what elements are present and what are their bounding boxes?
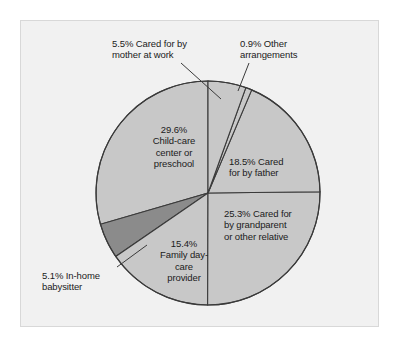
pie-label-father-line2: for by father [229, 167, 278, 178]
pie-label-family-day-care: 15.4%Family day-careprovider [148, 238, 220, 284]
pie-label-in-home-babysitter: 5.1% In-homebabysitter [42, 270, 100, 293]
pie-label-in-home-babysitter-line1: 5.1% In-home [42, 270, 100, 281]
pie-label-family-day-care-line3: care [175, 261, 193, 272]
pie-label-family-day-care-line4: provider [167, 272, 201, 283]
pie-label-family-day-care-line1: 15.4% [171, 238, 197, 249]
pie-label-childcare-center-line1: 29.6% [161, 124, 187, 135]
pie-label-father: 18.5% Caredfor by father [229, 156, 283, 179]
pie-label-other-arrangements-line2: arrangements [240, 49, 297, 60]
pie-label-grandparent-line2: by grandparent [224, 219, 287, 230]
pie-label-mother-at-work-line1: 5.5% Cared for by [112, 38, 187, 49]
pie-label-childcare-center: 29.6%Child-carecenter orpreschool [131, 124, 217, 170]
pie-chart-canvas [0, 0, 401, 348]
pie-chart-figure: 5.5% Cared for bymother at work 0.9% Oth… [0, 0, 401, 348]
pie-label-other-arrangements-line1: 0.9% Other [240, 38, 287, 49]
pie-label-in-home-babysitter-line2: babysitter [42, 281, 82, 292]
pie-label-other-arrangements: 0.9% Otherarrangements [240, 38, 297, 61]
pie-label-family-day-care-line2: Family day- [160, 249, 208, 260]
pie-label-childcare-center-line2: Child-care [153, 135, 195, 146]
pie-label-childcare-center-line3: center or [156, 147, 193, 158]
pie-label-father-line1: 18.5% Cared [229, 156, 283, 167]
pie-label-grandparent: 25.3% Cared forby grandparentor other re… [224, 208, 292, 242]
pie-label-childcare-center-line4: preschool [154, 158, 194, 169]
pie-label-mother-at-work-line2: mother at work [112, 49, 173, 60]
pie-label-grandparent-line3: or other relative [224, 231, 288, 242]
pie-label-grandparent-line1: 25.3% Cared for [224, 208, 292, 219]
pie-label-mother-at-work: 5.5% Cared for bymother at work [112, 38, 187, 61]
